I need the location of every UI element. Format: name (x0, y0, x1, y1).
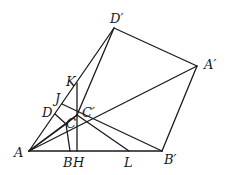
label-Dp: D′ (110, 12, 123, 25)
label-H: H (73, 156, 84, 169)
label-D: D (42, 106, 52, 119)
label-Bp: B′ (164, 153, 177, 166)
label-Cp: C′ (82, 106, 95, 119)
segment-D-C (55, 114, 66, 124)
segment-Ap-Dp (114, 28, 197, 66)
segment-A-C (29, 124, 66, 151)
label-C: C (66, 117, 76, 130)
segment-Bp-Ap (162, 66, 197, 151)
label-B: B (63, 156, 73, 169)
segment-A-Ap (29, 66, 197, 151)
segment-Cp-L (77, 115, 129, 151)
label-K: K (66, 75, 76, 88)
label-J: J (55, 92, 60, 105)
label-A: A (14, 146, 23, 159)
diagram-lines (0, 0, 230, 175)
label-Ap: A′ (204, 58, 216, 71)
label-L: L (124, 156, 133, 169)
geometry-diagram: A B H L B′ A′ D′ K J D C′ C (0, 0, 230, 175)
segment-Dp-Cp (77, 28, 114, 115)
